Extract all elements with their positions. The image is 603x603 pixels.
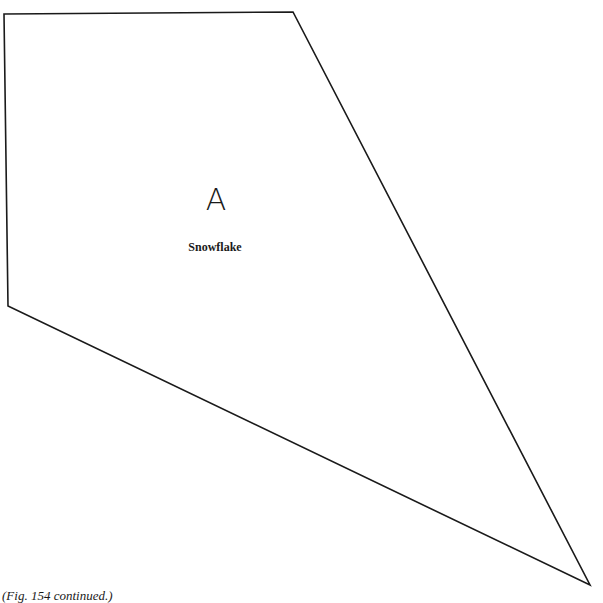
piece-name-label: Snowflake <box>160 240 270 255</box>
pattern-piece-outline <box>0 0 603 603</box>
figure-caption: (Fig. 154 continued.) <box>2 588 112 603</box>
piece-letter-label: A <box>196 182 236 217</box>
